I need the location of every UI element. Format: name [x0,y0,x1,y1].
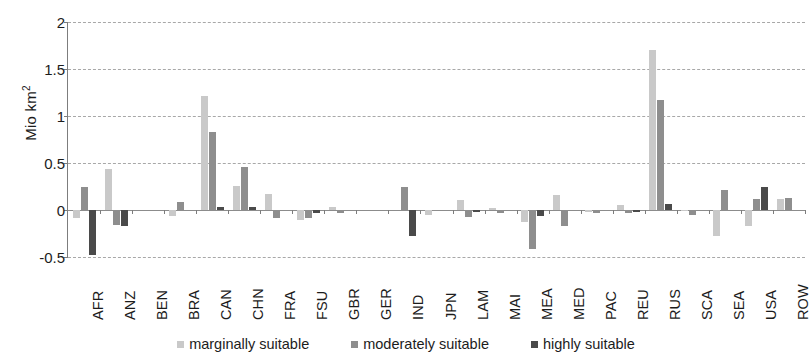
legend-label: highly suitable [543,336,635,352]
y-axis-title-superscript: 2 [21,85,32,91]
bar-group [549,22,581,257]
bar-group [132,22,164,257]
bar [657,100,664,210]
bar [561,210,568,226]
bar-group [485,22,517,257]
x-tick-label: ROW [795,284,811,320]
x-tick-label: FSU [314,291,330,320]
bar [337,210,344,213]
legend-swatch-icon [177,341,184,348]
bar [313,210,320,213]
x-tick-label: AFR [90,291,106,320]
bar-group [228,22,260,257]
bar [593,210,600,213]
legend-swatch-icon [531,341,538,348]
bar [585,210,592,212]
bar [201,96,208,210]
bar-group [709,22,741,257]
bar [489,208,496,210]
bar [425,210,432,215]
x-tick-label: PAC [603,291,619,320]
bar-group [677,22,709,257]
x-tick-label: FRA [282,291,298,320]
bar [713,210,720,236]
bar [241,167,248,210]
bar [177,202,184,210]
x-tick-label: SCA [699,290,715,320]
x-tick-mark [805,210,806,214]
bar [233,186,240,210]
bar [433,210,440,211]
bar-chart: Mio km2 AFRANZBENBRACANCHNFRAFSUGBRGERIN… [0,0,812,361]
bar [521,210,528,222]
bar [409,210,416,236]
bar [329,207,336,210]
bar-group [68,22,100,257]
x-tick-label: MED [571,287,587,320]
legend-swatch-icon [351,341,358,348]
bar [465,210,472,217]
x-tick-label: CHN [250,288,266,320]
x-tick-label: RUS [667,289,683,320]
bar [217,207,224,210]
bar [209,132,216,210]
bar [297,210,304,220]
plot-area [68,22,805,257]
bar [721,190,728,210]
legend-item[interactable]: highly suitable [531,336,635,352]
bar [113,210,120,225]
bar [305,210,312,218]
bar-group [196,22,228,257]
bar [553,195,560,210]
bar-group [453,22,485,257]
bar [753,199,760,210]
bar [273,210,280,218]
bar-group [581,22,613,257]
bar-group [388,22,420,257]
bar [105,169,112,210]
y-tick-label: 0.5 [13,155,65,172]
legend-item[interactable]: moderately suitable [351,336,489,352]
bar [745,210,752,226]
bar [249,207,256,210]
bar-group [613,22,645,257]
x-tick-label: BRA [186,290,202,320]
x-tick-label: ANZ [122,291,138,320]
bar-group [164,22,196,257]
x-tick-label: IND [410,295,426,320]
bar-group [260,22,292,257]
x-tick-label: GBR [346,288,362,320]
x-tick-label: CAN [218,289,234,320]
x-tick-label: REU [635,289,651,320]
x-tick-label: USA [763,290,779,320]
bar [785,198,792,210]
x-tick-label: JPN [443,292,459,320]
bar [497,210,504,213]
bar [777,199,784,210]
bar [689,210,696,215]
bar [457,200,464,210]
x-tick-label: LAM [475,290,491,320]
bar [649,50,656,210]
y-tick-label: -0.5 [13,249,65,266]
bar [617,205,624,210]
x-axis-labels: AFRANZBENBRACANCHNFRAFSUGBRGERINDJPNLAMM… [68,258,805,326]
bar [265,194,272,210]
bar-group [100,22,132,257]
bar [89,210,96,255]
x-tick-label: BEN [154,290,170,320]
bar [81,187,88,211]
bar-group [645,22,677,257]
bar [681,210,688,211]
y-tick-label: 1.5 [13,61,65,78]
legend-label: marginally suitable [189,336,309,352]
bar [473,210,480,212]
bar-group [292,22,324,257]
bar [73,210,80,218]
bar [665,204,672,210]
legend-item[interactable]: marginally suitable [177,336,309,352]
bar-group [324,22,356,257]
chart-legend: marginally suitablemoderately suitablehi… [0,336,812,352]
bar-groups [68,22,805,257]
bar-group [420,22,452,257]
